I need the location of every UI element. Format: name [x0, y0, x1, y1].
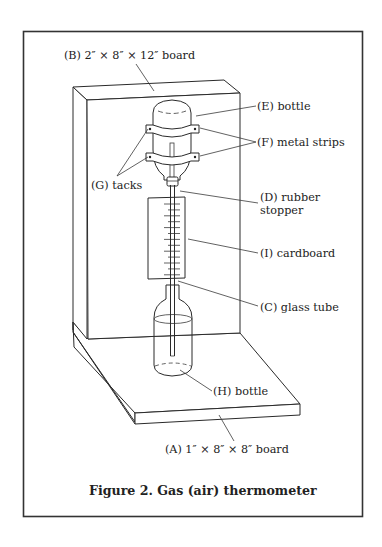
label-e: (E) bottle — [257, 100, 311, 113]
cardboard-scale-i — [148, 197, 185, 279]
label-c: (C) glass tube — [260, 301, 339, 314]
tack-icon — [194, 156, 196, 158]
tack-icon — [149, 128, 151, 130]
label-h: (H) bottle — [213, 385, 269, 398]
label-d-line2: stopper — [260, 204, 304, 217]
label-b: (B) 2″ × 8″ × 12″ board — [64, 49, 195, 62]
label-g: (G) tacks — [91, 179, 142, 192]
label-a: (A) 1″ × 8″ × 8″ board — [165, 443, 289, 456]
label-f: (F) metal strips — [257, 136, 345, 149]
label-i: (I) cardboard — [260, 247, 335, 260]
figure-caption: Figure 2. Gas (air) thermometer — [89, 483, 317, 498]
gas-thermometer-figure: (B) 2″ × 8″ × 12″ board (E) bottle (F) m… — [0, 0, 382, 547]
tack-icon — [149, 156, 151, 158]
label-d-line1: (D) rubber — [260, 191, 321, 204]
tack-icon — [194, 128, 196, 130]
upper-bottle-e — [153, 100, 191, 180]
rubber-stopper-d — [167, 177, 178, 186]
